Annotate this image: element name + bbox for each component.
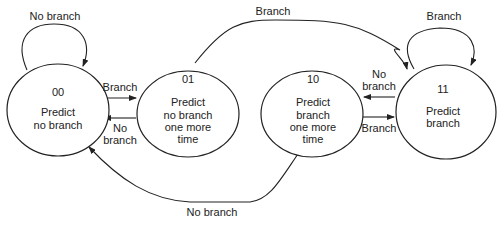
state-11-line: Predict — [426, 105, 460, 117]
state-00-line: Predict — [41, 106, 75, 118]
edge-00-self — [22, 24, 86, 70]
state-01-line: one more — [165, 121, 211, 133]
label-01-to-00: No — [113, 122, 127, 134]
state-10-line: Predict — [296, 96, 330, 108]
state-10-code: 10 — [307, 73, 319, 85]
label-00-to-01: Branch — [103, 81, 138, 93]
state-10-line: branch — [296, 109, 330, 121]
label-11-to-10: branch — [362, 80, 396, 92]
state-11-line: branch — [426, 117, 460, 129]
state-01-line: time — [178, 133, 199, 145]
edge-01-to-11 — [195, 20, 407, 69]
state-01-line: Predict — [171, 96, 205, 108]
label-11-to-10: No — [372, 68, 386, 80]
label-00-self: No branch — [30, 10, 81, 22]
state-01-code: 01 — [182, 73, 194, 85]
state-00-code: 00 — [52, 86, 64, 98]
state-00-line: no branch — [34, 119, 83, 131]
state-01-line: no branch — [164, 109, 213, 121]
label-11-self: Branch — [427, 10, 462, 22]
label-01-to-00: branch — [103, 134, 137, 146]
state-diagram: 00 Predict no branch 01 Predict no branc… — [0, 0, 498, 225]
state-10-line: one more — [290, 121, 336, 133]
label-10-to-11: Branch — [362, 122, 397, 134]
state-11-code: 11 — [437, 83, 448, 95]
state-10-line: time — [303, 133, 324, 145]
label-10-to-00: No branch — [187, 206, 238, 218]
label-01-to-11: Branch — [256, 5, 291, 17]
edge-11-self — [407, 28, 474, 69]
